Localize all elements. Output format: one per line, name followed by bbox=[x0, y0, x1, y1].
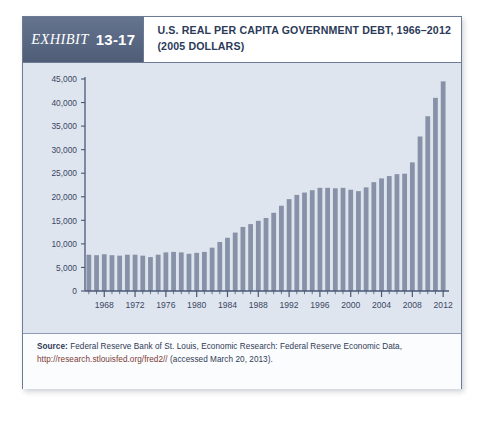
bar bbox=[94, 255, 99, 291]
x-tick-label: 2004 bbox=[372, 300, 391, 310]
y-axis-tick-labels: 05,00010,00015,00020,00025,00030,00035,0… bbox=[51, 74, 77, 296]
bar bbox=[241, 227, 246, 291]
y-tick-label: 25,000 bbox=[51, 168, 77, 178]
bar bbox=[348, 190, 353, 291]
x-tick-label: 1968 bbox=[95, 300, 114, 310]
bar bbox=[418, 136, 423, 291]
bar bbox=[287, 199, 292, 291]
title-line-2: (2005 Dollars) bbox=[157, 39, 451, 55]
y-tick-label: 0 bbox=[72, 286, 77, 296]
bar bbox=[356, 191, 361, 291]
bar bbox=[302, 193, 307, 291]
exhibit-header: Exhibit 13-17 U.S. Real Per Capita Gover… bbox=[23, 17, 461, 63]
bar bbox=[294, 195, 299, 291]
y-tick-label: 10,000 bbox=[51, 239, 77, 249]
source-url-link[interactable]: http://research.stlouisfed.org/fred2// bbox=[37, 355, 168, 364]
bar bbox=[187, 254, 192, 291]
y-tick-label: 35,000 bbox=[51, 121, 77, 131]
bar bbox=[325, 188, 330, 291]
bar-chart-svg: 05,00010,00015,00020,00025,00030,00035,0… bbox=[23, 63, 461, 333]
bar bbox=[217, 242, 222, 291]
bar bbox=[371, 182, 376, 291]
bar bbox=[179, 252, 184, 291]
bar bbox=[125, 255, 130, 291]
bar bbox=[225, 238, 230, 291]
bar bbox=[163, 252, 168, 291]
y-tick-label: 5,000 bbox=[56, 263, 77, 273]
bar bbox=[140, 256, 145, 291]
x-tick-label: 1996 bbox=[310, 300, 329, 310]
y-tick-label: 20,000 bbox=[51, 192, 77, 202]
y-tick-label: 15,000 bbox=[51, 216, 77, 226]
bar bbox=[410, 162, 415, 291]
bar bbox=[133, 255, 138, 291]
bar bbox=[341, 188, 346, 291]
x-tick-label: 1972 bbox=[126, 300, 145, 310]
bar bbox=[117, 256, 122, 291]
bar bbox=[333, 188, 338, 291]
exhibit-title: U.S. Real Per Capita Government Debt, 19… bbox=[144, 17, 461, 62]
bar bbox=[102, 254, 107, 291]
bar bbox=[379, 178, 384, 291]
exhibit-word-label: Exhibit bbox=[31, 31, 89, 48]
x-tick-label: 1988 bbox=[249, 300, 268, 310]
source-note: Source: Federal Reserve Bank of St. Loui… bbox=[23, 333, 461, 389]
y-tick-label: 40,000 bbox=[51, 98, 77, 108]
x-tick-label: 2012 bbox=[434, 300, 453, 310]
bar bbox=[402, 174, 407, 291]
exhibit-tag: Exhibit 13-17 bbox=[23, 17, 144, 62]
bar bbox=[248, 224, 253, 291]
bar bbox=[110, 255, 115, 291]
bar bbox=[433, 98, 438, 291]
exhibit-card: Exhibit 13-17 U.S. Real Per Capita Gover… bbox=[22, 16, 462, 389]
y-tick-label: 45,000 bbox=[51, 74, 77, 84]
bar bbox=[279, 206, 284, 291]
bar bbox=[86, 255, 91, 291]
y-tick-label: 30,000 bbox=[51, 145, 77, 155]
bar bbox=[310, 190, 315, 291]
bar bbox=[156, 255, 161, 291]
bar bbox=[194, 253, 199, 291]
x-axis-tick-labels: 1968197219761980198419881992199620002004… bbox=[95, 300, 453, 310]
source-label: Source: bbox=[37, 342, 68, 351]
bar bbox=[233, 233, 238, 291]
x-tick-label: 2000 bbox=[341, 300, 360, 310]
bar bbox=[441, 81, 446, 291]
bar bbox=[271, 213, 276, 291]
title-line-1: U.S. Real Per Capita Government Debt, 19… bbox=[157, 23, 451, 39]
x-tick-label: 1984 bbox=[218, 300, 237, 310]
bar bbox=[264, 218, 269, 291]
x-tick-label: 2008 bbox=[403, 300, 422, 310]
source-line-1: Source: Federal Reserve Bank of St. Loui… bbox=[37, 341, 447, 354]
x-tick-label: 1976 bbox=[156, 300, 175, 310]
bars-group bbox=[86, 81, 445, 291]
bar bbox=[318, 188, 323, 291]
bar bbox=[395, 174, 400, 291]
chart-plot-area: 05,00010,00015,00020,00025,00030,00035,0… bbox=[23, 63, 461, 333]
source-line-2: http://research.stlouisfed.org/fred2// (… bbox=[37, 354, 447, 367]
exhibit-number-label: 13-17 bbox=[96, 31, 135, 48]
bar bbox=[364, 187, 369, 291]
x-tick-label: 1992 bbox=[280, 300, 299, 310]
bar bbox=[202, 252, 207, 291]
bar bbox=[210, 248, 215, 291]
bar bbox=[387, 176, 392, 291]
x-tick-label: 1980 bbox=[187, 300, 206, 310]
source-text: Federal Reserve Bank of St. Louis, Econo… bbox=[68, 342, 402, 351]
bar bbox=[171, 252, 176, 291]
source-accessed: (accessed March 20, 2013). bbox=[168, 355, 273, 364]
bar bbox=[425, 116, 430, 291]
bar bbox=[256, 221, 261, 291]
bar bbox=[148, 257, 153, 291]
